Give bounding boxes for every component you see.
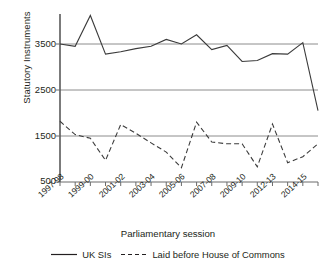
- chart-figure: Statutory Instruments 3500 2500 1500 500: [0, 0, 336, 277]
- x-axis-ticks: [60, 182, 318, 186]
- legend-swatch-solid-icon: [51, 251, 77, 258]
- legend-label-laid-before-house-of-commons: Laid before House of Commons: [152, 249, 284, 260]
- legend-label-uk-sis: UK SIs: [82, 249, 111, 260]
- gridlines: [60, 44, 318, 136]
- series-line-uk-sis: [60, 15, 318, 110]
- legend-entry-laid-before-house-of-commons: Laid before House of Commons: [121, 249, 284, 260]
- legend-swatch-dashed-icon: [121, 251, 147, 258]
- x-axis-title: Parliamentary session: [0, 228, 336, 239]
- legend-entry-uk-sis: UK SIs: [51, 249, 111, 260]
- series-line-laid-before-house-of-commons: [60, 121, 318, 167]
- chart-legend: UK SIs Laid before House of Commons: [0, 249, 336, 260]
